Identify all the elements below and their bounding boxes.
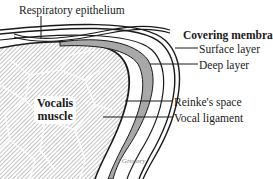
label-vocalis-line2: muscle: [37, 110, 73, 123]
label-surface-layer: Surface layer: [199, 44, 260, 56]
vocal-fold-diagram: [0, 0, 273, 179]
artist-credit: J Gregory: [117, 158, 145, 165]
label-vocalis-muscle: Vocalis muscle: [34, 96, 76, 124]
label-vocal-ligament: Vocal ligament: [174, 113, 243, 125]
label-reinkes-space: Reinke's space: [174, 97, 242, 109]
label-respiratory-epithelium: Respiratory epithelium: [19, 5, 125, 17]
label-deep-layer: Deep layer: [199, 60, 249, 72]
label-covering-membrane: Covering membrane:: [183, 30, 273, 42]
